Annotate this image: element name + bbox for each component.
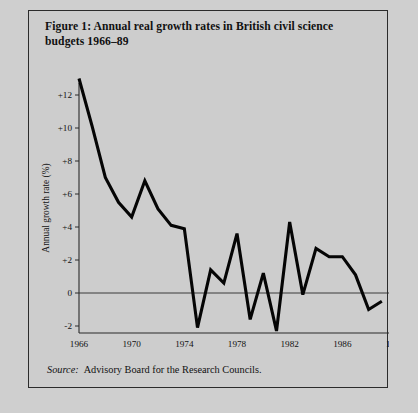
x-tick-label: 1978 xyxy=(228,339,247,349)
y-tick-label: -2 xyxy=(64,321,72,331)
source-label: Source: xyxy=(47,364,79,375)
y-tick-label: 0 xyxy=(67,288,72,298)
y-axis-title-text: Annual growth rate (%) xyxy=(41,163,52,252)
y-tick-label: +2 xyxy=(62,255,72,265)
y-tick-label: +8 xyxy=(62,156,72,166)
y-tick-label: +4 xyxy=(62,222,72,232)
x-tick-label: 1982 xyxy=(280,339,299,349)
x-tick-label: 1966 xyxy=(70,339,89,349)
x-tick-label: 1986 xyxy=(333,339,352,349)
x-tick-label: 1974 xyxy=(175,339,194,349)
x-axis: 1966197019741978198219861990 xyxy=(70,333,389,349)
source-text: Advisory Board for the Research Councils… xyxy=(84,364,262,375)
figure-frame: Figure 1: Annual real growth rates in Br… xyxy=(28,10,388,388)
x-tick-label: 1990 xyxy=(386,339,389,349)
source-note: Source:Advisory Board for the Research C… xyxy=(47,364,262,375)
y-axis: +12+10+8+6+4+20-2 xyxy=(58,83,79,333)
y-tick-label: +10 xyxy=(58,123,73,133)
y-axis-title: Annual growth rate (%) xyxy=(41,163,52,252)
y-tick-label: +12 xyxy=(58,90,73,100)
chart-plot-area: +12+10+8+6+4+20-2 1966197019741978198219… xyxy=(29,11,389,389)
x-tick-label: 1970 xyxy=(122,339,141,349)
y-tick-label: +6 xyxy=(62,189,72,199)
